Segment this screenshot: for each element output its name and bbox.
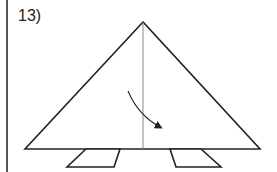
right-flap xyxy=(170,149,221,167)
origami-diagram xyxy=(0,0,277,172)
left-flap xyxy=(67,149,120,167)
